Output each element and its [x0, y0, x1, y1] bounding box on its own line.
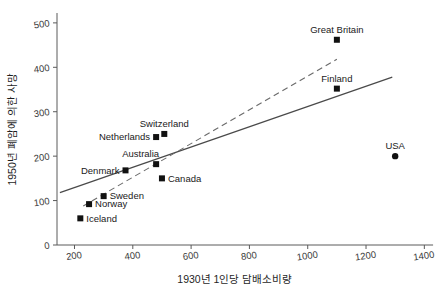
data-point-marker-square[interactable]	[153, 161, 159, 167]
y-tick-label: 200	[33, 151, 50, 164]
data-point-group	[161, 131, 167, 137]
chart-canvas: 0100200300400500200400600800100012001400…	[0, 0, 445, 293]
data-point-group	[153, 161, 159, 167]
y-tick-label: 300	[33, 106, 50, 119]
x-tick-label: 600	[182, 249, 199, 262]
y-tick-label: 0	[44, 239, 51, 251]
data-point-group	[123, 167, 129, 173]
data-point-marker-square[interactable]	[101, 193, 107, 199]
data-point-label: Finland	[321, 73, 352, 84]
x-tick-label: 800	[240, 249, 257, 262]
data-point-label: Sweden	[110, 190, 144, 201]
data-point-marker-square[interactable]	[86, 201, 92, 207]
data-point-marker-square[interactable]	[161, 131, 167, 137]
x-tick-label: 1200	[354, 249, 376, 263]
data-point-group	[334, 37, 340, 43]
data-point-marker-square[interactable]	[153, 134, 159, 140]
y-tick-label: 400	[33, 62, 50, 75]
data-point-label: Canada	[168, 173, 202, 184]
x-tick-label: 200	[65, 249, 82, 262]
scatter-chart-figure: 0100200300400500200400600800100012001400…	[0, 0, 445, 293]
data-point-label: Netherlands	[99, 131, 150, 142]
data-point-label: USA	[385, 140, 405, 151]
data-point-label: Denmark	[81, 165, 120, 176]
data-point-marker-square[interactable]	[159, 175, 165, 181]
data-point-group	[86, 201, 92, 207]
data-point-group	[334, 86, 340, 92]
y-axis-title: 1950년 폐암에 의한 사망	[6, 73, 18, 185]
y-tick-label: 500	[33, 17, 50, 30]
data-point-marker-square[interactable]	[77, 215, 83, 221]
data-point-marker-square[interactable]	[334, 86, 340, 92]
data-point-group	[77, 215, 83, 221]
data-point-marker-square[interactable]	[334, 37, 340, 43]
x-tick-label: 400	[124, 249, 141, 262]
x-axis-title: 1930년 1인당 담배소비량	[177, 273, 292, 285]
data-point-group	[101, 193, 107, 199]
data-point-group	[392, 153, 398, 159]
x-tick-label: 1400	[413, 249, 435, 263]
data-point-marker-circle[interactable]	[392, 153, 398, 159]
data-point-label: Iceland	[86, 213, 117, 224]
data-point-marker-square[interactable]	[123, 167, 129, 173]
data-point-group	[153, 134, 159, 140]
y-tick-label: 100	[33, 195, 50, 208]
data-point-label: Switzerland	[140, 118, 189, 129]
x-tick-label: 1000	[296, 249, 318, 263]
data-point-label: Australia	[122, 148, 160, 159]
data-point-group	[159, 175, 165, 181]
data-point-label: Great Britain	[310, 24, 363, 35]
